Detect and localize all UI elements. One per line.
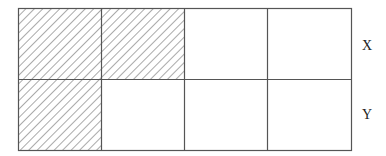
shaded-cell [19, 80, 102, 151]
empty-cell [268, 80, 352, 151]
empty-cell [268, 9, 352, 80]
empty-cell [102, 80, 185, 151]
empty-cell [185, 80, 268, 151]
row-label-x: X [362, 38, 372, 54]
row-label-y: Y [362, 107, 372, 123]
grid-diagram [0, 0, 386, 156]
shaded-cell [102, 9, 185, 80]
empty-cell [185, 9, 268, 80]
shaded-cell [19, 9, 102, 80]
